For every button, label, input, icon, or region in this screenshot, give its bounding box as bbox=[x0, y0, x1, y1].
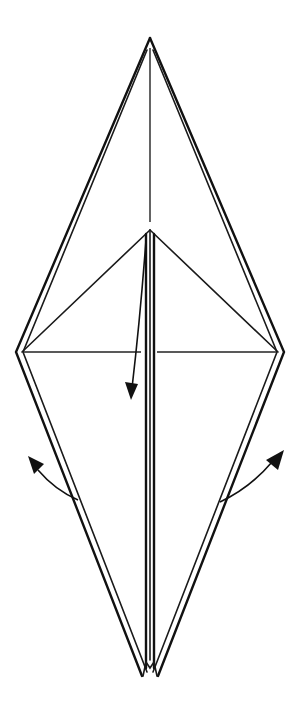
origami-diagram: Bird-base style diamond (kite) with cent… bbox=[0, 0, 291, 708]
fold-down-arrow-icon bbox=[125, 240, 146, 400]
outer-left-edge bbox=[16, 38, 150, 676]
outer-right-edge bbox=[150, 38, 284, 676]
center-flap-strips bbox=[143, 230, 157, 676]
origami-diagram-canvas bbox=[0, 0, 291, 708]
